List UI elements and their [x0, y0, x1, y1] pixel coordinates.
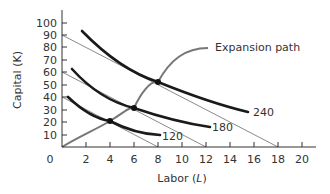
- y-tick-70: 70: [43, 54, 57, 67]
- y-tick-20: 20: [43, 116, 57, 129]
- tangency-point-180: [131, 105, 137, 111]
- y-tick-80: 80: [43, 41, 57, 54]
- tangency-point-120: [107, 118, 113, 124]
- tangency-point-240: [155, 79, 161, 85]
- expansion-path-label: Expansion path: [215, 41, 300, 54]
- y-tick-90: 90: [43, 29, 57, 42]
- y-tick-labels: 10 20 30 40 50 60 70 80 90 100: [36, 17, 57, 142]
- x-tick-4: 4: [107, 153, 114, 166]
- x-tick-6: 6: [131, 153, 138, 166]
- x-tick-14: 14: [223, 153, 237, 166]
- y-tick-50: 50: [43, 79, 57, 92]
- x-tick-18: 18: [271, 153, 285, 166]
- isoquant-label-180: 180: [212, 121, 233, 134]
- x-tick-8: 8: [155, 153, 162, 166]
- y-tick-40: 40: [43, 91, 57, 104]
- y-tick-30: 30: [43, 104, 57, 117]
- x-tick-0: 0: [47, 153, 54, 166]
- x-tick-20: 20: [295, 153, 309, 166]
- x-axis-title: Labor (L): [157, 172, 206, 185]
- x-tick-labels: 0 2 4 6 8 10 12 14 16 18 20: [47, 153, 310, 166]
- isoquant-label-120: 120: [162, 130, 183, 143]
- x-tick-16: 16: [247, 153, 261, 166]
- isoquant-label-240: 240: [253, 106, 274, 119]
- y-tick-60: 60: [43, 66, 57, 79]
- isoquant-180: [72, 69, 210, 127]
- y-tick-10: 10: [43, 129, 57, 142]
- x-tick-2: 2: [83, 153, 90, 166]
- y-axis-title: Capital (K): [11, 51, 24, 109]
- isoquant-chart: 10 20 30 40 50 60 70 80 90 100 0 2 4 6 8…: [0, 0, 330, 194]
- x-tick-12: 12: [199, 153, 213, 166]
- y-tick-100: 100: [36, 17, 57, 30]
- x-tick-10: 10: [175, 153, 189, 166]
